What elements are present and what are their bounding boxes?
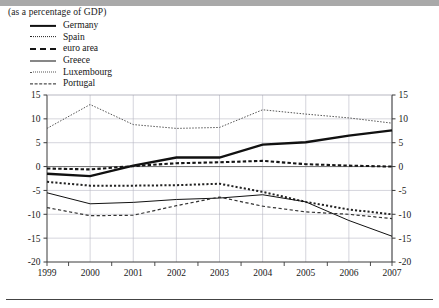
figure-panel: (as a percentage of GDP) GermanySpaineur…	[0, 0, 439, 308]
xtick-label-2000: 2000	[81, 268, 100, 278]
bottom-divider-rule	[6, 299, 433, 300]
ytick-label-left-5: 5	[36, 138, 41, 148]
legend-item-germany: Germany	[30, 20, 180, 32]
xtick-label-2001: 2001	[124, 268, 143, 278]
line-chart-svg: 151510105500-5-5-10-10-15-15-20-20199920…	[0, 86, 439, 286]
legend-item-spain: Spain	[30, 32, 180, 44]
xtick-label-2002: 2002	[167, 268, 186, 278]
ytick-label-left--10: -10	[28, 210, 41, 220]
ytick-label-right-5: 5	[399, 138, 404, 148]
xtick-label-2003: 2003	[210, 268, 229, 278]
legend-swatch-greece	[30, 55, 56, 66]
ytick-label-left-10: 10	[31, 114, 41, 124]
chart-legend: GermanySpaineuro areaGreeceLuxembourgPor…	[30, 20, 180, 90]
xtick-label-1999: 1999	[38, 268, 57, 278]
ytick-label-right-0: 0	[399, 162, 404, 172]
legend-label-greece: Greece	[63, 55, 90, 66]
figure-subtitle: (as a percentage of GDP)	[8, 7, 106, 17]
ytick-label-left-15: 15	[31, 90, 41, 100]
ytick-label-right--5: -5	[399, 186, 407, 196]
xtick-label-2007: 2007	[383, 268, 402, 278]
gridlines	[47, 95, 392, 262]
xtick-label-2005: 2005	[296, 268, 315, 278]
legend-label-euro_area: euro area	[63, 43, 98, 54]
ytick-label-left--20: -20	[28, 257, 41, 267]
legend-swatch-luxembourg	[30, 67, 56, 78]
xtick-label-2006: 2006	[339, 268, 358, 278]
top-gray-band	[0, 0, 439, 6]
xtick-label-2004: 2004	[253, 268, 272, 278]
chart-area: 151510105500-5-5-10-10-15-15-20-20199920…	[0, 86, 439, 286]
ytick-label-left--5: -5	[33, 186, 41, 196]
ytick-label-right--20: -20	[399, 257, 412, 267]
legend-label-germany: Germany	[63, 20, 98, 31]
legend-item-luxembourg: Luxembourg	[30, 66, 180, 78]
legend-item-euro_area: euro area	[30, 43, 180, 55]
ytick-label-left--15: -15	[28, 234, 41, 244]
ytick-label-right-10: 10	[399, 114, 409, 124]
legend-swatch-spain	[30, 32, 56, 43]
ytick-label-right--10: -10	[399, 210, 412, 220]
legend-swatch-germany	[30, 20, 56, 31]
legend-label-spain: Spain	[63, 32, 85, 43]
ytick-label-right--15: -15	[399, 234, 412, 244]
legend-item-greece: Greece	[30, 55, 180, 67]
legend-label-luxembourg: Luxembourg	[63, 67, 112, 78]
legend-swatch-euro_area	[30, 43, 56, 54]
ytick-label-left-0: 0	[36, 162, 41, 172]
ytick-label-right-15: 15	[399, 90, 409, 100]
